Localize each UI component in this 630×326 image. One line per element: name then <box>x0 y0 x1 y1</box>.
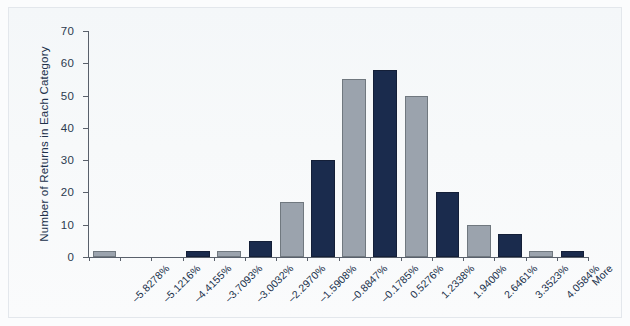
bar-slot <box>214 31 245 257</box>
x-axis-tick <box>463 257 464 261</box>
x-axis-tick <box>432 257 433 261</box>
bar-slot <box>276 31 307 257</box>
y-axis-tick-label: 10 <box>61 219 74 231</box>
bar-slot <box>183 31 214 257</box>
x-axis-tick <box>120 257 121 261</box>
histogram-bar[interactable] <box>467 225 491 257</box>
histogram-bar[interactable] <box>93 251 117 257</box>
y-axis-tick: 60 <box>83 63 88 64</box>
y-axis-tick-label: 40 <box>61 122 74 134</box>
bar-slot <box>370 31 401 257</box>
x-axis-tick-label: 1.9400% <box>470 262 508 300</box>
y-axis-tick-label: 70 <box>61 25 74 37</box>
y-axis-tick-label: 50 <box>61 90 74 102</box>
x-axis-tick <box>370 257 371 261</box>
x-axis-tick <box>183 257 184 261</box>
histogram-bar[interactable] <box>498 234 522 257</box>
histogram-bar[interactable] <box>373 70 397 257</box>
histogram-bar[interactable] <box>217 251 241 257</box>
x-axis-tick <box>276 257 277 261</box>
x-axis-tick <box>89 257 90 261</box>
x-axis-tick-label: 1.2338% <box>439 262 477 300</box>
bar-group <box>89 31 588 257</box>
bar-slot <box>307 31 338 257</box>
y-axis-tick: 50 <box>83 96 88 97</box>
x-axis-tick-label: 3.3523% <box>532 262 570 300</box>
bar-slot <box>526 31 557 257</box>
bar-slot <box>245 31 276 257</box>
histogram-bar[interactable] <box>561 251 585 257</box>
x-tick-label-group: –5.8278%–5.1216%–4.4155%–3.7093%–3.0032%… <box>89 262 589 322</box>
x-axis-tick <box>339 257 340 261</box>
histogram-bar[interactable] <box>249 241 273 257</box>
y-axis-tick: 0 <box>83 257 88 258</box>
bar-slot <box>494 31 525 257</box>
bar-slot <box>89 31 120 257</box>
bar-slot <box>557 31 588 257</box>
x-axis-tick <box>494 257 495 261</box>
x-axis-tick <box>401 257 402 261</box>
histogram-bar[interactable] <box>436 192 460 257</box>
histogram-bar[interactable] <box>529 251 553 257</box>
x-axis-tick-label: 2.6461% <box>501 262 539 300</box>
x-axis-tick <box>526 257 527 261</box>
histogram-bar[interactable] <box>280 202 304 257</box>
y-axis-tick-label: 60 <box>61 57 74 69</box>
x-axis-tick <box>214 257 215 261</box>
y-axis-title-label: Number of Returns in Each Category <box>38 46 50 241</box>
histogram-bar[interactable] <box>342 79 366 257</box>
y-axis-tick-label: 30 <box>61 154 74 166</box>
bar-slot <box>432 31 463 257</box>
y-axis-title: Number of Returns in Each Category <box>36 31 52 257</box>
x-axis-tick <box>588 257 589 261</box>
x-axis-tick <box>307 257 308 261</box>
bar-slot <box>120 31 151 257</box>
bar-slot <box>463 31 494 257</box>
y-axis-tick-label: 20 <box>61 186 74 198</box>
y-axis-tick-label: 0 <box>67 251 74 263</box>
y-axis-tick: 20 <box>83 192 88 193</box>
x-axis-tick <box>151 257 152 261</box>
histogram-bar[interactable] <box>186 251 210 257</box>
histogram-figure: Number of Returns in Each Category 01020… <box>0 0 630 326</box>
plot-area: 010203040506070 <box>88 31 588 257</box>
bar-slot <box>151 31 182 257</box>
y-axis-tick: 40 <box>83 128 88 129</box>
y-axis-tick: 30 <box>83 160 88 161</box>
x-axis-tick <box>245 257 246 261</box>
y-axis-tick: 70 <box>83 31 88 32</box>
histogram-bar[interactable] <box>311 160 335 257</box>
x-axis-tick <box>557 257 558 261</box>
bar-slot <box>339 31 370 257</box>
histogram-bar[interactable] <box>405 96 429 257</box>
y-axis-tick: 10 <box>83 225 88 226</box>
bar-slot <box>401 31 432 257</box>
